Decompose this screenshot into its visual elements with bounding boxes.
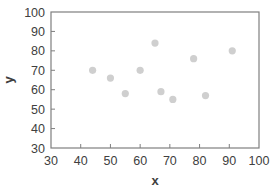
x-tick-label: 30 (44, 154, 58, 168)
x-tick-label: 90 (222, 154, 236, 168)
x-tick-label: 80 (193, 154, 207, 168)
y-tick-label: 60 (31, 83, 45, 97)
x-tick-label: 60 (133, 154, 147, 168)
data-point (157, 88, 164, 95)
x-tick-label: 50 (103, 154, 117, 168)
data-points (89, 39, 236, 103)
data-point (229, 47, 236, 54)
y-axis-title: y (1, 76, 16, 84)
data-point (137, 67, 144, 74)
x-axis-title: x (151, 173, 159, 188)
scatter-chart: 30405060708090100 30405060708090100 x y (0, 0, 271, 191)
data-point (190, 55, 197, 62)
y-tick-label: 50 (31, 103, 45, 117)
plot-area-border (51, 12, 259, 148)
data-point (89, 67, 96, 74)
x-tick-label: 40 (74, 154, 88, 168)
data-point (107, 74, 114, 81)
y-tick-label: 40 (31, 122, 45, 136)
data-point (122, 90, 129, 97)
y-tick-label: 30 (31, 142, 45, 156)
y-tick-label: 70 (31, 64, 45, 78)
y-tick-label: 100 (24, 6, 45, 20)
y-axis-ticks: 30405060708090100 (24, 6, 55, 156)
x-tick-label: 100 (249, 154, 270, 168)
plot-frame (51, 12, 259, 148)
data-point (202, 92, 209, 99)
x-tick-label: 70 (163, 154, 177, 168)
data-point (169, 96, 176, 103)
y-tick-label: 90 (31, 25, 45, 39)
y-tick-label: 80 (31, 44, 45, 58)
data-point (151, 39, 158, 46)
